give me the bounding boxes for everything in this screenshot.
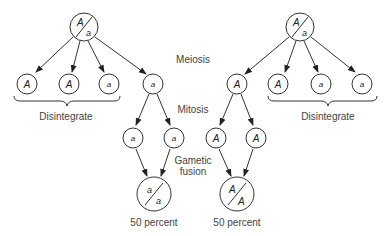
offspring-left-allele-top: a (147, 185, 152, 195)
mitosis-product-3: A (206, 128, 226, 148)
mitosis-label: Mitosis (177, 104, 208, 115)
offspring-left-allele-bottom: a (156, 196, 161, 206)
left-meiosis-product-1: A (17, 74, 37, 94)
offspring-right-allele-top: A (228, 184, 236, 195)
mitosis-product-1: a (123, 128, 143, 148)
offspring-right-cell: A A (220, 177, 254, 211)
svg-text:A: A (274, 79, 282, 90)
meiosis-label: Meiosis (176, 54, 210, 65)
right-meiosis-arrows (245, 37, 355, 74)
result-right-label: 50 percent (213, 217, 260, 228)
result-left-label: 50 percent (130, 217, 177, 228)
left-parent-cell: A a (70, 13, 98, 41)
left-disintegrate-brace (14, 96, 120, 106)
svg-text:a: a (319, 80, 324, 89)
right-disintegrate-label: Disintegrate (301, 111, 355, 122)
left-meiosis-product-2: A (59, 74, 79, 94)
right-meiosis-product-4: a (352, 74, 372, 94)
right-meiosis-product-3: a (311, 74, 331, 94)
svg-text:a: a (172, 134, 177, 143)
right-meiosis-product-1: A (227, 74, 247, 94)
svg-text:A: A (65, 79, 73, 90)
svg-text:a: a (360, 80, 365, 89)
svg-text:A: A (252, 133, 260, 144)
right-parent-allele-top: A (292, 17, 300, 28)
svg-text:A: A (23, 79, 31, 90)
mitosis-product-2: a (164, 128, 184, 148)
right-parent-cell: A a (286, 13, 314, 41)
right-disintegrate-brace (268, 96, 377, 106)
left-meiosis-product-3: a (99, 74, 119, 94)
svg-text:a: a (151, 80, 156, 89)
fusion-label: fusion (180, 166, 207, 177)
offspring-right-allele-bottom: A (237, 196, 245, 207)
right-meiosis-product-2: A (268, 74, 288, 94)
meiosis-diagram: A a A a A A a a A (0, 0, 384, 236)
gametic-label: Gametic (174, 155, 211, 166)
svg-text:A: A (212, 133, 220, 144)
offspring-left-cell: a a (137, 177, 171, 211)
left-meiosis-product-4: a (143, 74, 163, 94)
left-parent-allele-top: A (76, 17, 84, 28)
mitosis-product-4: A (246, 128, 266, 148)
svg-text:a: a (107, 80, 112, 89)
svg-text:a: a (131, 134, 136, 143)
svg-text:A: A (233, 79, 241, 90)
left-disintegrate-label: Disintegrate (39, 111, 93, 122)
right-parent-allele-bottom: a (302, 28, 307, 38)
left-meiosis-arrows (36, 37, 146, 74)
left-parent-allele-bottom: a (86, 28, 91, 38)
